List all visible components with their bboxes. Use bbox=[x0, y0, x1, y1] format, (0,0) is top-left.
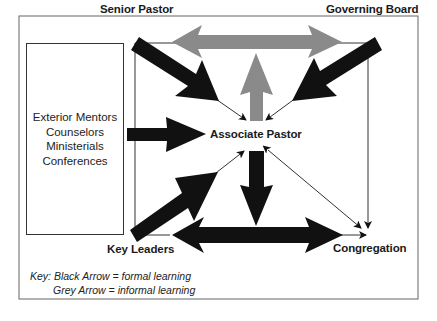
exterior-line-2: Counselors bbox=[46, 125, 104, 140]
black-arrow-exterior bbox=[127, 117, 206, 152]
node-associate-pastor: Associate Pastor bbox=[210, 128, 302, 140]
grey-up-arrow bbox=[240, 53, 273, 121]
learning-diagram: Senior Pastor Governing Board Associate … bbox=[0, 0, 437, 321]
exterior-sources-box: Exterior Mentors Counselors Ministerials… bbox=[26, 43, 124, 235]
exterior-line-4: Conferences bbox=[42, 154, 107, 169]
exterior-line-3: Ministerials bbox=[46, 139, 104, 154]
black-arrow-down bbox=[240, 151, 273, 226]
node-governing-board: Governing Board bbox=[326, 3, 418, 15]
key-formal: Key: Black Arrow = formal learning bbox=[30, 270, 191, 282]
node-congregation: Congregation bbox=[333, 242, 407, 254]
node-key-leaders: Key Leaders bbox=[107, 243, 174, 255]
key-informal: Grey Arrow = informal learning bbox=[53, 284, 195, 296]
grey-double-arrow-top bbox=[172, 25, 342, 58]
exterior-line-1: Exterior Mentors bbox=[33, 110, 117, 125]
node-senior-pastor: Senior Pastor bbox=[100, 3, 173, 15]
black-double-arrow-bottom bbox=[172, 217, 343, 253]
